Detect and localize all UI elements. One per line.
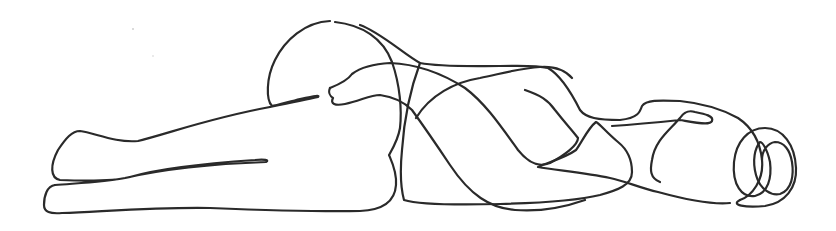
- upper-leg-outline: [52, 107, 270, 185]
- line-drawing: [0, 0, 836, 231]
- hand-outline: [329, 88, 585, 210]
- speck: [152, 55, 154, 57]
- arm-outline: [268, 21, 330, 107]
- speck: [132, 28, 134, 30]
- head-outline: [734, 128, 796, 207]
- forearm-outline: [330, 63, 578, 165]
- reaching-arm-outline: [612, 111, 712, 182]
